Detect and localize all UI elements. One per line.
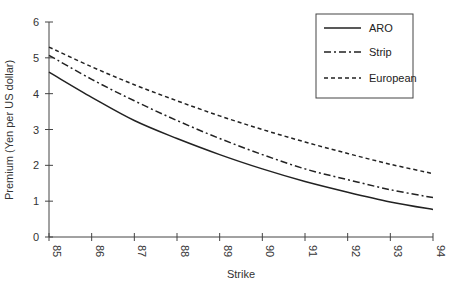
y-tick-label: 1 — [33, 195, 39, 207]
x-tick-label: 89 — [222, 245, 234, 257]
y-tick-label: 2 — [33, 159, 39, 171]
legend-label-aro: ARO — [369, 22, 393, 34]
x-tick-label: 85 — [51, 245, 63, 257]
line-chart: 0123456 85868788899091929394 Strike Prem… — [0, 0, 455, 290]
y-tick-label: 6 — [33, 16, 39, 28]
y-tick-label: 4 — [33, 88, 39, 100]
y-axis-title: Premium (Yen per US dollar) — [3, 60, 15, 200]
x-axis: 85868788899091929394 — [49, 233, 447, 257]
x-axis-title: Strike — [227, 268, 255, 280]
legend: ARO Strip European — [316, 14, 417, 98]
x-tick-label: 94 — [435, 245, 447, 257]
legend-box — [316, 14, 413, 98]
legend-label-european: European — [369, 72, 417, 84]
x-tick-label: 88 — [179, 245, 191, 257]
y-axis: 0123456 — [33, 16, 53, 243]
x-tick-label: 92 — [350, 245, 362, 257]
y-tick-label: 5 — [33, 52, 39, 64]
x-tick-label: 90 — [264, 245, 276, 257]
legend-label-strip: Strip — [369, 46, 392, 58]
x-tick-label: 87 — [136, 245, 148, 257]
x-tick-label: 91 — [307, 245, 319, 257]
x-tick-label: 93 — [392, 245, 404, 257]
x-tick-label: 86 — [94, 245, 106, 257]
y-tick-label: 3 — [33, 124, 39, 136]
y-tick-label: 0 — [33, 231, 39, 243]
